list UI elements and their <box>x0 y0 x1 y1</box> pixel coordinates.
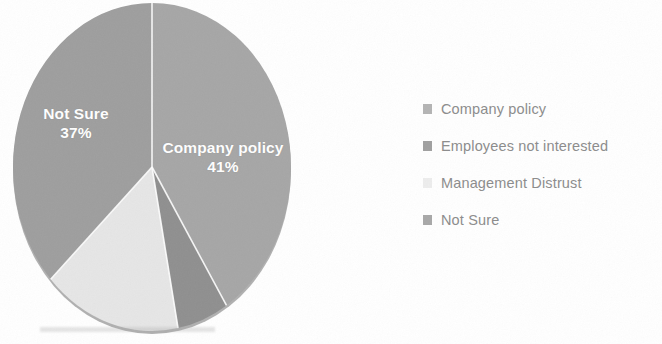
legend-item-not-sure: Not Sure <box>423 201 662 238</box>
scan-artifact-smudge <box>40 327 215 332</box>
legend-label-employees-not-interested: Employees not interested <box>441 138 608 154</box>
pie-label-not-sure: Not Sure 37% <box>18 104 134 143</box>
legend-swatch-management-distrust <box>423 178 432 188</box>
pie-label-company-policy-percent: 41% <box>143 157 303 176</box>
pie-label-not-sure-name: Not Sure <box>18 104 134 123</box>
legend-item-company-policy: Company policy <box>423 90 662 127</box>
pie-chart-figure: Company policy 41% Not Sure 37% Company … <box>0 0 662 344</box>
legend-label-company-policy: Company policy <box>441 101 546 117</box>
legend-swatch-company-policy <box>423 104 432 114</box>
chart-legend: Company policy Employees not interested … <box>423 90 662 238</box>
legend-swatch-not-sure <box>423 215 432 225</box>
pie-label-not-sure-percent: 37% <box>18 123 134 142</box>
legend-label-management-distrust: Management Distrust <box>441 175 582 191</box>
legend-item-employees-not-interested: Employees not interested <box>423 127 662 164</box>
pie-label-company-policy-name: Company policy <box>143 138 303 157</box>
legend-swatch-employees-not-interested <box>423 141 432 151</box>
legend-label-not-sure: Not Sure <box>441 212 499 228</box>
legend-item-management-distrust: Management Distrust <box>423 164 662 201</box>
pie-label-company-policy: Company policy 41% <box>143 138 303 177</box>
pie-chart-plot-area: Company policy 41% Not Sure 37% <box>0 0 330 344</box>
